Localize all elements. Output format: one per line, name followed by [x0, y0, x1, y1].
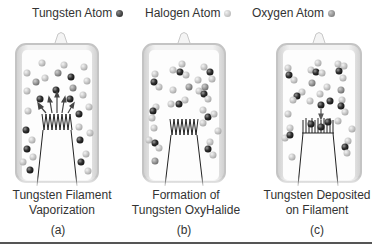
legend-label: Oxygen Atom — [252, 6, 324, 20]
legend-halogen: Halogen Atom — [145, 6, 231, 20]
caption-c-line2: on Filament — [255, 203, 372, 218]
bulb-panel-c — [248, 30, 372, 188]
halogen-atom-icon — [224, 10, 231, 17]
bulb-oxyhalide-illustration — [125, 30, 249, 188]
caption-c-line1: Tungsten Deposited — [255, 188, 372, 203]
caption-b-line2: Tungsten OxyHalide — [124, 203, 248, 218]
label-b: (b) — [122, 223, 246, 237]
caption-b-line1: Formation of — [124, 188, 248, 203]
bulb-vaporization-illustration — [0, 30, 124, 188]
bulb-panel-b — [125, 30, 249, 188]
caption-c: Tungsten Deposited on Filament — [255, 188, 372, 218]
bulb-deposition-illustration — [248, 30, 372, 188]
caption-a: Tungsten Filament Vaporization — [0, 188, 124, 218]
legend-oxygen: Oxygen Atom — [252, 6, 335, 20]
caption-a-line1: Tungsten Filament — [0, 188, 124, 203]
label-a: (a) — [0, 223, 120, 237]
caption-b: Formation of Tungsten OxyHalide — [124, 188, 248, 218]
bottom-divider — [0, 242, 372, 244]
legend-label: Halogen Atom — [145, 6, 220, 20]
legend-label: Tungsten Atom — [32, 6, 112, 20]
legend-tungsten: Tungsten Atom — [32, 6, 123, 20]
oxygen-atom-icon — [328, 10, 335, 17]
bulb-panel-a — [0, 30, 124, 188]
tungsten-atom-icon — [116, 10, 123, 17]
caption-a-line2: Vaporization — [0, 203, 124, 218]
label-c: (c) — [255, 223, 372, 237]
